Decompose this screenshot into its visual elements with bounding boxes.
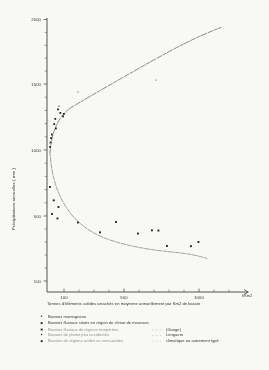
legend-entry-1[interactable]: Bassins fluviaux situés en région de cli… (41, 320, 149, 325)
legend-label-0: Bassins montagneux (48, 314, 86, 319)
series-montagneux-points (49, 80, 156, 148)
legend-label-1: Bassins fluviaux situés en région de cli… (48, 320, 149, 325)
legend: Bassins montagneux Bassins fluviaux situ… (41, 314, 220, 343)
y-tick-label-1000: 1000 (31, 148, 41, 153)
y-tick-label-2000: 2000 (31, 17, 41, 22)
x-tick-label-1000: 1000 (194, 295, 204, 300)
series-mousson-points (49, 186, 199, 247)
legend-dot-icon (41, 316, 42, 317)
legend-entry-3[interactable]: Bassins de plaine peu accidentés Lenguer… (41, 332, 184, 337)
axis-group (47, 18, 248, 294)
legend-tail-3: Lenguere (166, 332, 184, 337)
y-tick-label-100: 100 (34, 279, 42, 284)
legend-square-icon (41, 329, 43, 331)
x-tick-label-100: 100 (60, 295, 68, 300)
y-axis-title: Précipitations annuelles ( mm ) (11, 167, 16, 230)
legend-label-2: Bassins fluviaux de régions tempérées (48, 327, 118, 332)
scatter-chart: 2000 1500 1000 500 100 100 (0, 0, 269, 370)
legend-square-icon (41, 322, 43, 324)
legend-tail-2: (Gange) (166, 327, 182, 332)
x-axis-unit-label: t/Km2 (242, 294, 252, 298)
figure-page: 2000 1500 1000 500 100 100 (0, 0, 269, 370)
y-tick-label-500: 500 (34, 214, 42, 219)
y-tick-label-1500: 1500 (31, 82, 41, 87)
legend-tail-4: climatique ou autrement typé (166, 338, 219, 343)
lower-branch-curve (50, 152, 207, 259)
legend-label-4: Bassins de régions arides ou semi-arides (48, 338, 123, 343)
chart-canvas: 2000 1500 1000 500 100 100 (0, 0, 269, 370)
x-tick-label-500: 500 (120, 295, 128, 300)
legend-label-3: Bassins de plaine peu accidentés (48, 332, 109, 337)
x-axis-title: Tonnes d'éléments solides arrachés en mo… (47, 301, 201, 306)
legend-entry-0[interactable]: Bassins montagneux (41, 314, 86, 319)
legend-entry-4[interactable]: Bassins de régions arides ou semi-arides… (41, 338, 220, 343)
y-ticks (44, 20, 48, 282)
legend-dot-icon (41, 334, 42, 335)
legend-square-icon (41, 340, 43, 342)
upper-branch-curve (50, 28, 221, 153)
x-ticks (64, 289, 229, 292)
legend-entry-2[interactable]: Bassins fluviaux de régions tempérées (G… (41, 327, 182, 332)
